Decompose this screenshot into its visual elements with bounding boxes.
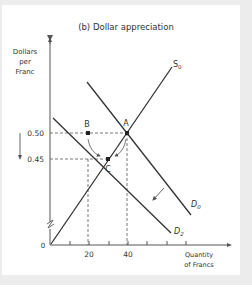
x-tick-20: 20	[84, 250, 94, 259]
point-c-label: C	[105, 165, 111, 174]
x-axis-arrow-icon	[227, 243, 232, 247]
origin-label: 0	[41, 242, 45, 250]
demand-curve-d0	[87, 82, 191, 215]
y-axis-label-line3: Franc	[16, 68, 35, 76]
demand0-label: D0	[191, 200, 201, 210]
y-tick-050: 0.50	[27, 129, 44, 138]
point-b	[86, 131, 90, 135]
x-tick-40: 40	[123, 250, 133, 259]
diagram-title: (b) Dollar appreciation	[78, 22, 174, 32]
point-c	[106, 157, 110, 161]
demand-shift-arrow-icon	[153, 188, 164, 200]
y-axis	[47, 40, 54, 245]
x-axis	[50, 241, 232, 247]
y-axis-label-line2: per	[19, 58, 31, 66]
axis-break-icon	[47, 220, 54, 228]
demand2-label: D2	[174, 227, 184, 237]
y-tick-045: 0.45	[27, 155, 44, 164]
point-b-label: B	[84, 120, 90, 129]
point-a-label: A	[123, 119, 129, 128]
supply-label: S0	[173, 60, 182, 70]
x-axis-label-line2: of Francs	[184, 261, 214, 269]
x-axis-label-line1: Quantity	[185, 251, 213, 259]
exchange-rate-diagram: (b) Dollar appreciation Dollars per Fran…	[0, 0, 252, 285]
y-axis-label-line1: Dollars	[13, 48, 38, 56]
price-fall-arrow-icon	[18, 133, 22, 160]
y-axis-arrow-icon	[48, 37, 52, 42]
supply-curve-s0	[51, 67, 172, 244]
point-a	[125, 131, 129, 135]
